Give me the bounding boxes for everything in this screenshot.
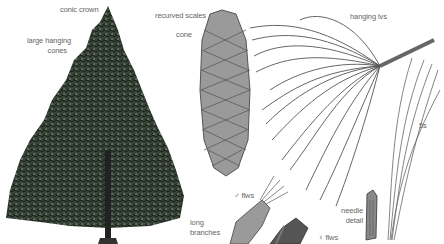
label-long-branches-line2: branches (190, 228, 220, 237)
label-cone: cone (176, 30, 192, 39)
label-large-hanging-cones-line2: cones (27, 46, 67, 55)
botanical-illustration: conic crown large hanging cones recurved… (0, 0, 444, 244)
needle-detail-drawing (366, 190, 377, 240)
needle-cluster-drawing (388, 58, 440, 240)
cone-drawing (200, 10, 250, 176)
label-hanging-lvs: hanging lvs (350, 12, 387, 21)
label-long-branches-line1: long (190, 218, 204, 227)
label-female-flowers: ♀ flws (318, 233, 338, 242)
label-conic-crown: conic crown (60, 5, 99, 14)
label-male-flowers: ♂ flws (234, 191, 254, 200)
label-needle-detail-line1: needle (333, 206, 363, 215)
label-needle-detail-line2: detail (333, 216, 363, 225)
label-5s: 5s (419, 121, 427, 130)
hanging-leaves-drawing (250, 16, 434, 206)
label-recurved-scales: recurved scales (155, 11, 206, 20)
label-large-hanging-cones-line1: large hanging (27, 36, 67, 45)
female-flowers-drawing (270, 218, 308, 244)
